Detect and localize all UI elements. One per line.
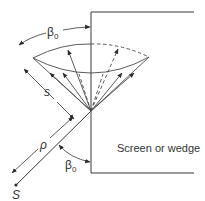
ray-dashed-arrow [91,49,118,111]
s-dimension-arrow-lower [57,102,74,119]
ray-arrow [68,50,91,111]
rho-dimension-arrow-lower [12,149,38,173]
ray-arrow [63,73,91,111]
incident-ray [16,111,91,185]
source-label: S [12,188,20,201]
beta0-bottom-label: β0 [65,158,77,174]
diffracted-rays-solid [50,50,134,111]
beta0-bottom-arc [59,145,90,162]
screen-label: Screen or wedge [117,142,200,154]
beta0-top-arc-left [19,33,46,45]
rho-dimension-arrow-upper [50,117,73,138]
cone-rim-back-left [33,44,91,58]
s-label: s [44,85,50,99]
cone-rim-back-right-dashed [91,44,149,57]
beta0-top-arc-right [63,27,90,30]
diffraction-cone-diagram: s ρ β0 β0 S Screen or wedge [0,0,205,201]
ray-arrow [91,73,122,111]
source-point [14,183,17,186]
rho-label: ρ [39,138,47,152]
beta0-top-label: β0 [47,25,59,41]
